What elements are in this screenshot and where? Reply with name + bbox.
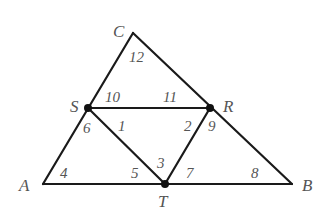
angle-label-7: 7	[186, 165, 195, 181]
angle-label-6: 6	[83, 120, 91, 136]
point-t	[161, 180, 169, 188]
vertex-label-s: S	[70, 97, 79, 116]
segment-st	[88, 108, 165, 184]
angle-label-9: 9	[208, 118, 216, 134]
angle-label-12: 12	[129, 49, 145, 65]
vertex-label-r: R	[222, 97, 234, 116]
angle-label-4: 4	[60, 165, 68, 181]
point-s	[84, 104, 92, 112]
triangle-diagram: C S R A T B 1 2 3 4 5 6 7 8 9 10 11 12	[0, 0, 331, 218]
angle-label-10: 10	[105, 89, 121, 105]
angle-label-11: 11	[163, 89, 177, 105]
vertex-label-c: C	[113, 22, 125, 41]
vertex-label-t: T	[158, 192, 169, 211]
vertex-label-a: A	[18, 176, 30, 195]
angle-label-2: 2	[184, 118, 192, 134]
angle-label-3: 3	[156, 155, 165, 171]
angle-label-5: 5	[131, 165, 139, 181]
angle-label-1: 1	[118, 118, 126, 134]
vertex-label-b: B	[302, 176, 313, 195]
point-r	[206, 104, 214, 112]
angle-label-8: 8	[251, 165, 259, 181]
